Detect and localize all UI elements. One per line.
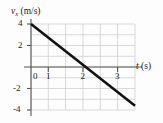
y-tick-label-minus4: -4 bbox=[13, 105, 21, 114]
y-axis-label-units: (m/s) bbox=[20, 6, 40, 16]
y-axis-label-subscript: x bbox=[15, 10, 18, 17]
velocity-time-graph: vx (m/s) t (s) 4 2 -2 -4 0 1 2 3 bbox=[0, 0, 163, 123]
y-tick-label-minus2: -2 bbox=[13, 84, 21, 93]
x-tick-label-3: 3 bbox=[115, 72, 120, 81]
chart-screenshot: vx (m/s) t (s) 4 2 -2 -4 0 1 2 3 bbox=[0, 0, 163, 123]
x-tick-label-0: 0 bbox=[33, 72, 38, 81]
x-axis-label-variable: t bbox=[136, 61, 139, 71]
x-tick-label-2: 2 bbox=[81, 72, 86, 81]
x-axis-label: t (s) bbox=[136, 62, 151, 72]
x-tick-label-1: 1 bbox=[46, 72, 51, 81]
y-axis-label: vx (m/s) bbox=[11, 7, 41, 17]
y-tick-label-2: 2 bbox=[18, 41, 23, 50]
y-tick-label-4: 4 bbox=[18, 19, 23, 28]
x-axis-label-units: (s) bbox=[141, 61, 151, 71]
